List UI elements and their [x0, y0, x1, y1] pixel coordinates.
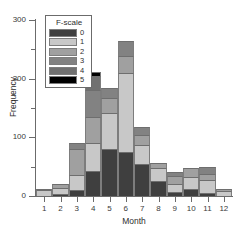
x-tick-label: 6	[118, 204, 134, 213]
bar-segment	[85, 171, 101, 196]
bar-segment	[150, 181, 166, 196]
y-tick-label: 300	[2, 16, 26, 24]
x-tick	[224, 197, 225, 202]
legend-label: 2	[80, 48, 84, 56]
x-tick-label: 2	[53, 204, 69, 213]
bar-segment	[134, 164, 150, 196]
x-tick-label: 12	[216, 204, 232, 213]
x-tick-label: 9	[167, 204, 183, 213]
bar-segment	[118, 152, 134, 196]
legend-item[interactable]: 5	[49, 76, 89, 85]
x-tick	[191, 197, 192, 202]
bar-segment	[101, 149, 117, 196]
x-axis-title: Month	[36, 216, 232, 226]
y-tick-major	[29, 20, 35, 21]
y-axis-line	[35, 19, 36, 197]
y-tick-label: 100	[2, 133, 26, 141]
legend-label: 3	[80, 57, 84, 65]
x-tick	[126, 197, 127, 202]
y-tick-major	[29, 137, 35, 138]
x-tick	[93, 197, 94, 202]
bar-segment	[85, 143, 101, 171]
bar-segment	[101, 98, 117, 113]
bar-segment	[134, 145, 150, 164]
bar-column	[199, 20, 215, 196]
y-axis-title: Frequency	[8, 62, 18, 132]
x-tick	[159, 197, 160, 202]
legend-swatch	[49, 29, 77, 37]
legend-box: F-scale 012345	[45, 15, 92, 88]
legend-swatch	[49, 38, 77, 46]
x-tick	[175, 197, 176, 202]
x-tick	[110, 197, 111, 202]
bar-segment	[85, 90, 101, 116]
bar-segment	[118, 73, 134, 152]
y-tick-major	[29, 196, 35, 197]
legend-label: 1	[80, 38, 84, 46]
legend-swatch	[49, 76, 77, 84]
bar-column	[167, 20, 183, 196]
legend-item[interactable]: 4	[49, 66, 89, 75]
y-tick-label: 0	[2, 192, 26, 200]
x-tick	[208, 197, 209, 202]
bar-segment	[118, 56, 134, 72]
chart-figure: 0100200300 123456789101112 Month Frequen…	[0, 0, 238, 234]
bar-column	[150, 20, 166, 196]
legend-title: F-scale	[49, 18, 89, 28]
bar-segment	[199, 167, 215, 174]
legend-label: 4	[80, 67, 84, 75]
x-tick-label: 10	[183, 204, 199, 213]
x-tick-label: 11	[200, 204, 216, 213]
y-tick-minor	[31, 167, 35, 168]
bar-segment	[85, 117, 101, 143]
legend-entries: 012345	[49, 28, 89, 85]
x-tick	[142, 197, 143, 202]
bar-segment	[69, 149, 85, 175]
x-tick	[77, 197, 78, 202]
y-tick-minor	[31, 49, 35, 50]
legend-label: 5	[80, 76, 84, 84]
bar-segment	[150, 168, 166, 181]
bar-segment	[134, 135, 150, 145]
x-tick-label: 8	[151, 204, 167, 213]
x-tick	[44, 197, 45, 202]
legend-swatch	[49, 57, 77, 65]
bar-segment	[101, 113, 117, 149]
legend-label: 0	[80, 29, 84, 37]
x-axis-line	[35, 196, 233, 197]
legend-item[interactable]: 2	[49, 47, 89, 56]
bar-segment	[101, 88, 117, 99]
bar-segment	[183, 168, 199, 177]
bar-segment	[183, 177, 199, 189]
bar-column	[134, 20, 150, 196]
x-tick-label: 5	[102, 204, 118, 213]
x-tick-label: 3	[69, 204, 85, 213]
legend-swatch	[49, 48, 77, 56]
legend-item[interactable]: 3	[49, 57, 89, 66]
bar-column	[101, 20, 117, 196]
bar-column	[183, 20, 199, 196]
bar-segment	[118, 41, 134, 57]
bar-segment	[167, 176, 183, 184]
bar-segment	[134, 127, 150, 135]
x-tick-label: 1	[36, 204, 52, 213]
x-tick	[61, 197, 62, 202]
bar-segment	[183, 189, 199, 196]
y-tick-major	[29, 79, 35, 80]
legend-item[interactable]: 1	[49, 38, 89, 47]
x-tick-label: 4	[85, 204, 101, 213]
bar-column	[118, 20, 134, 196]
legend-item[interactable]: 0	[49, 28, 89, 37]
bar-column	[216, 20, 232, 196]
x-tick-label: 7	[134, 204, 150, 213]
bar-segment	[167, 184, 183, 192]
legend-swatch	[49, 67, 77, 75]
bar-segment	[69, 175, 85, 190]
y-tick-minor	[31, 108, 35, 109]
bar-segment	[199, 180, 215, 193]
